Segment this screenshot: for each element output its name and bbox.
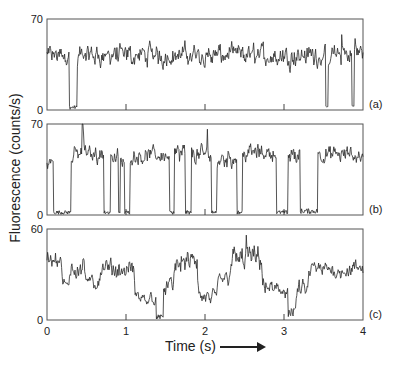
y-tick-label-min: 0 xyxy=(37,209,43,221)
panel-label: (b) xyxy=(369,203,382,215)
x-tick-label: 1 xyxy=(123,325,129,337)
y-tick-label-max: 70 xyxy=(31,118,43,130)
figure: 700(a)700(b)600(c)01234 Fluorescence (co… xyxy=(0,0,398,370)
y-tick-label-max: 70 xyxy=(31,13,43,25)
panel-label: (c) xyxy=(369,308,382,320)
y-axis-label: Fluorescence (counts/s) xyxy=(7,93,23,242)
y-tick-label-min: 0 xyxy=(37,314,43,326)
y-tick-label-min: 0 xyxy=(37,104,43,116)
panel-frame xyxy=(47,229,363,320)
panel-frame xyxy=(47,124,363,215)
fluorescence-trace xyxy=(47,124,363,214)
x-axis-label: Time (s) xyxy=(165,338,216,354)
x-tick-label: 3 xyxy=(281,325,287,337)
x-tick-label: 4 xyxy=(360,325,366,337)
x-tick-label: 0 xyxy=(44,325,50,337)
y-tick-label-max: 60 xyxy=(31,223,43,235)
fluorescence-trace xyxy=(47,235,363,319)
x-tick-label: 2 xyxy=(202,325,208,337)
panel-label: (a) xyxy=(369,98,382,110)
arrow-right-icon xyxy=(220,346,260,348)
plot-canvas: 700(a)700(b)600(c)01234 xyxy=(0,0,398,370)
fluorescence-trace xyxy=(47,35,363,110)
